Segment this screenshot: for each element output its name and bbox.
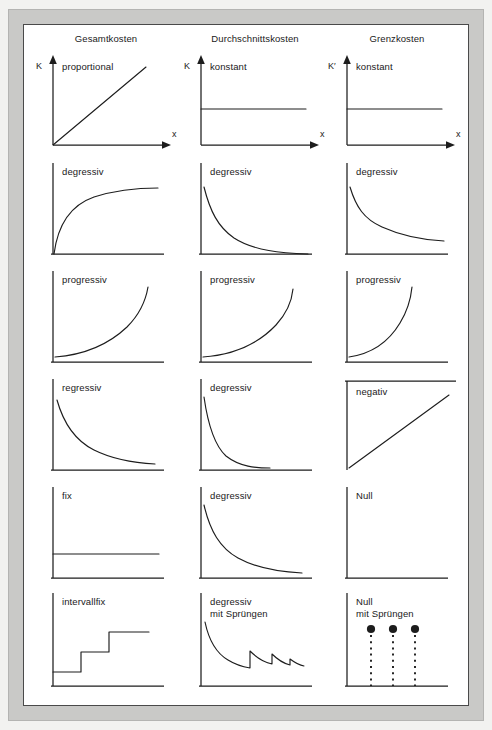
- chart-cell-r6c2-degressiv-mit-spruengen: degressiv mit Sprüngen: [184, 591, 332, 695]
- plot-degressiv-average-steep: [184, 377, 332, 479]
- chart-cell-r2c2-degressiv: degressiv: [184, 161, 332, 263]
- plot-progressiv-marginal: [328, 269, 468, 371]
- plot-null-mit-spruengen: [328, 591, 468, 695]
- plot-negativ-marginal: [328, 377, 468, 479]
- plot-intervallfix-total: [36, 591, 184, 695]
- plot-degressiv-total: [36, 161, 184, 263]
- chart-cell-r5c2-degressiv: degressiv: [184, 485, 332, 585]
- plot-regressiv-total: [36, 377, 184, 479]
- plot-konstant-marginal: [328, 53, 468, 153]
- chart-cell-r4c2-degressiv: degressiv: [184, 377, 332, 479]
- chart-cell-r2c1-degressiv: degressiv: [36, 161, 184, 263]
- chart-cell-r3c2-progressiv: progressiv: [184, 269, 332, 371]
- chart-cell-r3c3-progressiv: progressiv: [328, 269, 468, 371]
- chart-cell-r1c1-proportional: K proportional x: [36, 53, 184, 153]
- column-header-durchschnittskosten: Durchschnittskosten: [180, 33, 330, 44]
- plot-progressiv-average: [184, 269, 332, 371]
- plot-degressiv-average-2: [184, 485, 332, 585]
- plot-null-marginal: [328, 485, 468, 585]
- plot-proportional: [36, 53, 184, 153]
- plot-degressiv-average: [184, 161, 332, 263]
- chart-cell-r6c3-null-mit-spruengen: Null mit Sprüngen: [328, 591, 468, 695]
- chart-cell-r4c3-negativ: negativ: [328, 377, 468, 479]
- figure-sheet: Gesamtkosten Durchschnittskosten Grenzko…: [23, 24, 469, 706]
- plot-fix-total: [36, 485, 184, 585]
- chart-cell-r1c2-konstant: K konstant x: [184, 53, 332, 153]
- plot-degressiv-marginal: [328, 161, 468, 263]
- column-header-gesamtkosten: Gesamtkosten: [32, 33, 180, 44]
- chart-cell-r1c3-konstant: K′ konstant x: [328, 53, 468, 153]
- chart-cell-r4c1-regressiv: regressiv: [36, 377, 184, 479]
- chart-cell-r5c1-fix: fix: [36, 485, 184, 585]
- plot-degressiv-mit-spruengen: [184, 591, 332, 695]
- chart-cell-r6c1-intervallfix: intervallfix: [36, 591, 184, 695]
- chart-cell-r2c3-degressiv: degressiv: [328, 161, 468, 263]
- figure-page: Gesamtkosten Durchschnittskosten Grenzko…: [0, 0, 492, 730]
- column-header-grenzkosten: Grenzkosten: [330, 33, 464, 44]
- plot-progressiv-total: [36, 269, 184, 371]
- chart-cell-r5c3-null: Null: [328, 485, 468, 585]
- plot-konstant-avg: [184, 53, 332, 153]
- chart-cell-r3c1-progressiv: progressiv: [36, 269, 184, 371]
- chart-grid: Gesamtkosten Durchschnittskosten Grenzko…: [24, 25, 468, 705]
